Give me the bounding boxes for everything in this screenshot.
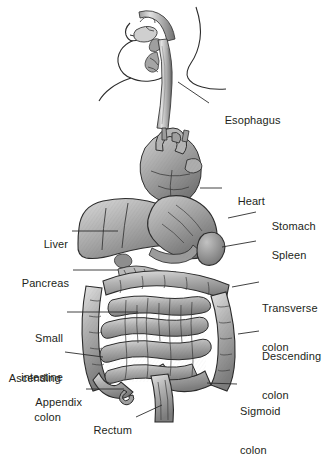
trachea-branch	[145, 52, 159, 72]
label-sigmoid-colon-line2: colon	[240, 444, 280, 457]
label-sigmoid-colon: Sigmoid colon	[240, 379, 280, 458]
label-descending-colon-line1: Descending	[262, 350, 321, 363]
chin-neck-outline	[131, 75, 166, 81]
label-pancreas-line1: Pancreas	[22, 277, 69, 289]
label-liver-line1: Liver	[44, 238, 68, 250]
label-heart-line1: Heart	[238, 195, 265, 207]
gallbladder	[114, 254, 131, 268]
rectum-body	[151, 374, 173, 422]
spleen-body	[197, 232, 225, 265]
label-esophagus-line1: Esophagus	[225, 114, 281, 126]
label-spleen: Spleen	[259, 236, 306, 275]
label-liver: Liver	[0, 225, 68, 264]
label-small-intestine-line1: Small	[0, 332, 63, 345]
leader-descending-colon	[238, 331, 259, 334]
esophagus-tube	[157, 39, 172, 129]
label-sigmoid-colon-line1: Sigmoid	[240, 405, 280, 418]
leader-esophagus	[178, 82, 209, 103]
label-spleen-line1: Spleen	[272, 249, 307, 261]
heart-group	[140, 128, 202, 203]
label-rectum: Rectum	[60, 411, 132, 450]
small-intestine-group	[100, 296, 211, 383]
rectum-group	[151, 374, 173, 422]
label-stomach-line1: Stomach	[272, 220, 316, 232]
heart-texture	[140, 133, 201, 203]
leader-transverse-colon	[232, 282, 259, 287]
head-profile-outline	[118, 23, 132, 78]
leader-spleen	[222, 241, 256, 247]
label-pancreas: Pancreas	[0, 264, 69, 303]
head-back-outline	[187, 7, 226, 89]
label-appendix-line1: Appendix	[35, 396, 82, 408]
label-esophagus: Esophagus	[212, 101, 281, 140]
neck-front-outline	[99, 78, 131, 101]
transverse-colon	[103, 271, 229, 300]
mesentery-shading	[106, 296, 206, 382]
label-rectum-line1: Rectum	[94, 424, 133, 436]
label-transverse-colon-line1: Transverse	[262, 302, 318, 315]
